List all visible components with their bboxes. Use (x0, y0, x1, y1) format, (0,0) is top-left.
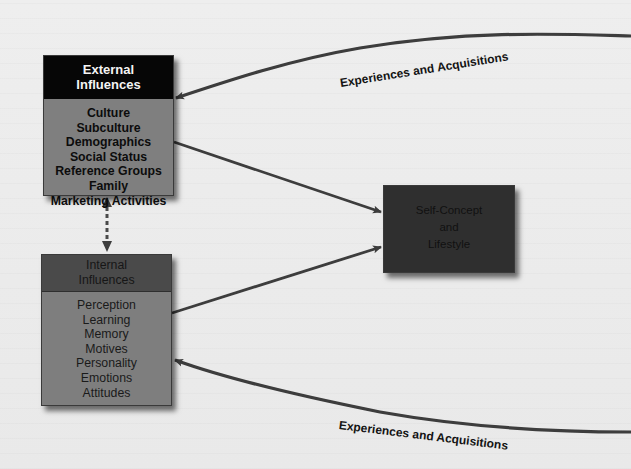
external-item-subculture: Subculture (44, 121, 173, 136)
arrow-internal-to-selfconcept (172, 247, 381, 313)
self-concept-label: Self-Concept and Lifestyle (416, 202, 482, 253)
internal-item-personality: Personality (42, 356, 171, 371)
external-item-reference-groups: Reference Groups (44, 164, 173, 179)
arrow-external-to-selfconcept (174, 142, 381, 212)
external-item-culture: Culture (44, 106, 173, 121)
internal-item-motives: Motives (42, 342, 171, 357)
external-title-line1: External (44, 62, 173, 77)
self-concept-lifestyle-box: Self-Concept and Lifestyle (383, 185, 515, 273)
internal-item-attitudes: Attitudes (42, 386, 171, 401)
self-concept-line2: and (416, 219, 482, 236)
self-concept-line1: Self-Concept (416, 202, 482, 219)
feedback-arrow-bottom (175, 360, 631, 432)
internal-item-emotions: Emotions (42, 371, 171, 386)
internal-influences-list: Perception Learning Memory Motives Perso… (42, 292, 171, 400)
external-item-marketing-activities: Marketing Activities (44, 194, 173, 209)
external-item-demographics: Demographics (44, 135, 173, 150)
internal-influences-header: Internal Influences (42, 255, 171, 292)
external-item-family: Family (44, 179, 173, 194)
self-concept-line3: Lifestyle (416, 236, 482, 253)
internal-item-perception: Perception (42, 298, 171, 313)
internal-item-memory: Memory (42, 327, 171, 342)
external-item-social-status: Social Status (44, 150, 173, 165)
external-influences-box: External Influences Culture Subculture D… (43, 55, 174, 196)
external-title-line2: Influences (44, 77, 173, 92)
external-influences-list: Culture Subculture Demographics Social S… (44, 99, 173, 208)
external-influences-header: External Influences (44, 56, 173, 99)
internal-title-line1: Internal (42, 258, 171, 273)
internal-title-line2: Influences (42, 273, 171, 288)
internal-item-learning: Learning (42, 313, 171, 328)
internal-influences-box: Internal Influences Perception Learning … (41, 254, 172, 406)
